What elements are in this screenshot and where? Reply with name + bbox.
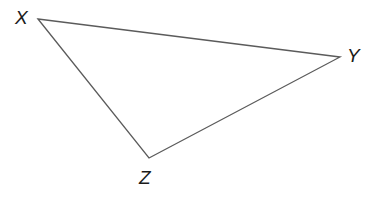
triangle-figure: X Y Z [0, 0, 384, 209]
vertex-label-z: Z [139, 168, 151, 187]
triangle-canvas [0, 0, 384, 209]
vertex-label-x: X [15, 8, 28, 27]
vertex-label-y: Y [347, 46, 360, 65]
triangle-shape [38, 19, 340, 158]
